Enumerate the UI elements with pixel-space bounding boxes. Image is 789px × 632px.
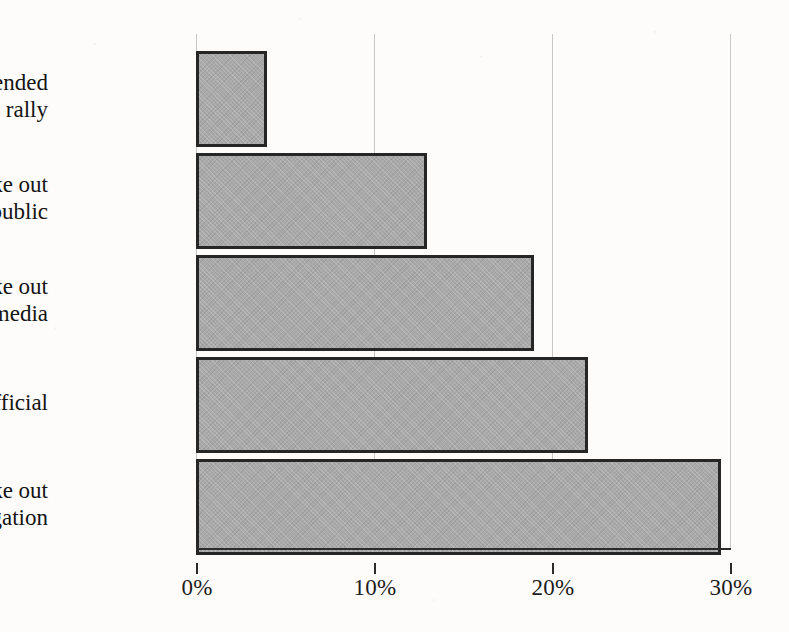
- horizontal-bar-chart: 0% 10% 20% 30% Attended public rally Spo…: [0, 0, 789, 632]
- gridline-30: [730, 34, 731, 548]
- category-label-contacted-official: Contacted official: [0, 389, 48, 416]
- x-tick-label-30: 30%: [710, 575, 753, 601]
- x-tick-30: [730, 563, 732, 574]
- category-label-spoke-out-on-social-media: Spoke out on social media: [0, 273, 48, 327]
- bar-contacted-official: [196, 357, 588, 453]
- x-tick-label-10: 10%: [354, 575, 397, 601]
- x-tick-label-0: 0%: [181, 575, 212, 601]
- category-label-spoke-out-in-congregation: Spoke out in congregation: [0, 477, 48, 531]
- bar-attended-public-rally: [196, 51, 267, 147]
- bar-spoke-out-on-social-media: [196, 255, 534, 351]
- category-label-attended-public-rally: Attended public rally: [0, 69, 48, 123]
- x-tick-10: [374, 563, 376, 574]
- x-tick-0: [196, 563, 198, 574]
- bar-spoke-out-in-public: [196, 153, 427, 249]
- x-tick-label-20: 20%: [532, 575, 575, 601]
- x-tick-20: [552, 563, 554, 574]
- category-label-spoke-out-in-public: Spoke out in public: [0, 171, 48, 225]
- plot-area: [196, 34, 730, 548]
- bar-spoke-out-in-congregation: [196, 459, 721, 555]
- x-axis-line: [196, 548, 731, 550]
